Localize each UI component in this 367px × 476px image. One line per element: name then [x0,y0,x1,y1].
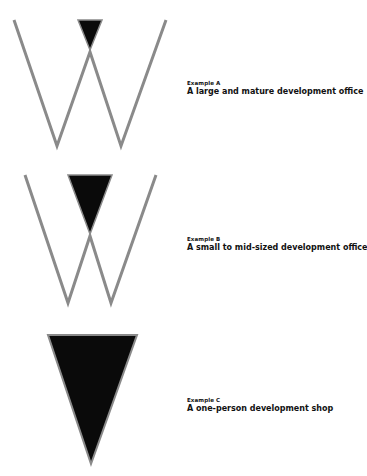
example-b-black-triangle [68,175,112,234]
example-b-description: A small to mid-sized development office [187,243,367,253]
example-a-black-triangle [78,20,102,50]
example-a-description: A large and mature development office [187,87,363,97]
example-a-figure [14,20,166,146]
example-c-description: A one-person development shop [187,404,333,414]
example-a-caption: Example A A large and mature development… [187,80,363,97]
example-c-label: Example C [187,397,333,404]
example-c-figure [48,335,137,464]
example-c-caption: Example C A one-person development shop [187,397,333,414]
example-a-label: Example A [187,80,363,87]
example-b-label: Example B [187,236,367,243]
example-c-black-triangle [48,335,137,464]
example-b-caption: Example B A small to mid-sized developme… [187,236,367,253]
example-b-figure [25,175,156,303]
